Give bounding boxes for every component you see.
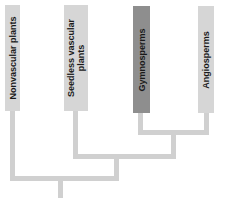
root-stem [58, 176, 63, 198]
taxon-seedless-label-line1: Seedless vascular [66, 19, 76, 97]
branch-seedless [73, 111, 78, 159]
taxon-angiosperms-box: Angiosperms [198, 6, 214, 113]
node-root-horizontal [10, 176, 119, 181]
taxon-gymnosperms-box: Gymnosperms [133, 6, 150, 113]
node-vascular-horizontal [73, 154, 176, 159]
taxon-seedless-box: Seedless vascular plants [64, 5, 88, 111]
taxon-nonvascular-label: Nonvascular plants [8, 16, 18, 99]
taxon-gymnosperms-label: Gymnosperms [137, 28, 147, 91]
taxon-nonvascular-box: Nonvascular plants [5, 5, 20, 111]
taxon-seedless-label: Seedless vascular plants [66, 19, 86, 97]
branch-nonvascular [10, 111, 15, 181]
taxon-angiosperms-label: Angiosperms [201, 31, 211, 89]
taxon-seedless-label-line2: plants [76, 45, 86, 72]
